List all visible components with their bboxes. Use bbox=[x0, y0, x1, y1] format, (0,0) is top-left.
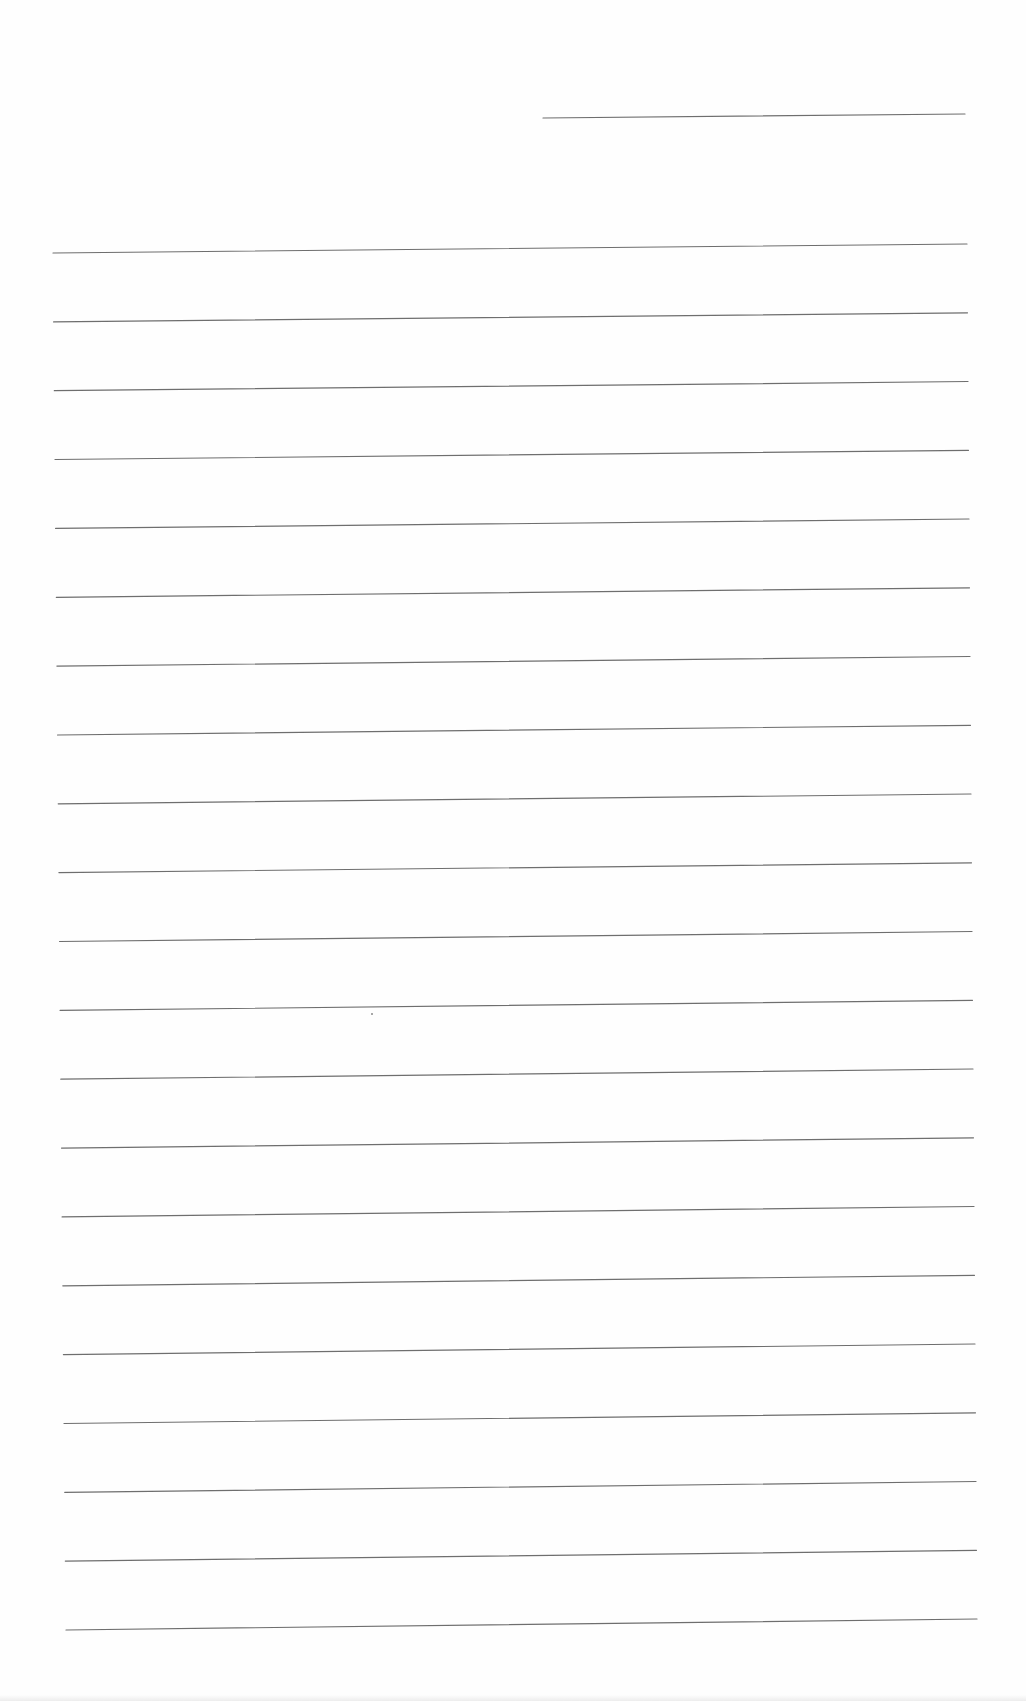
header-name-line bbox=[543, 114, 965, 118]
ruled-line bbox=[56, 519, 969, 528]
ruled-line bbox=[63, 1344, 975, 1355]
ruled-line bbox=[54, 313, 968, 322]
ruled-line bbox=[60, 932, 973, 942]
ruled-line bbox=[63, 1275, 975, 1286]
ruled-line bbox=[57, 657, 970, 667]
ruled-line-group bbox=[53, 244, 977, 1630]
ruled-line bbox=[60, 1000, 972, 1010]
ruled-line bbox=[56, 588, 969, 598]
ruled-line bbox=[62, 1207, 974, 1217]
ruled-line bbox=[59, 863, 972, 873]
ruled-line bbox=[62, 1138, 974, 1148]
lined-paper-sheet bbox=[0, 0, 1026, 1701]
ruled-lines bbox=[0, 0, 1026, 1701]
ruled-line bbox=[58, 794, 971, 804]
ruled-line bbox=[54, 382, 968, 391]
ruled-line bbox=[58, 725, 971, 735]
ruled-line bbox=[65, 1550, 976, 1561]
ruled-line bbox=[66, 1619, 977, 1630]
ruled-line bbox=[61, 1069, 973, 1079]
scan-bottom-edge bbox=[0, 1695, 1026, 1701]
ruled-line bbox=[53, 244, 967, 253]
ruled-line bbox=[55, 450, 969, 459]
ruled-line bbox=[64, 1413, 976, 1424]
ruled-line bbox=[65, 1482, 976, 1493]
dust-speck bbox=[371, 1013, 373, 1015]
